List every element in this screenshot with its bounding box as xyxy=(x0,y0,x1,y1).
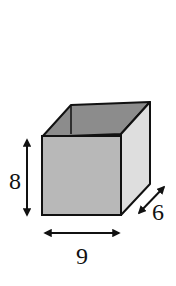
depth-label: 6 xyxy=(152,199,164,225)
width-label: 9 xyxy=(76,243,88,269)
front-face xyxy=(42,136,121,215)
height-label: 8 xyxy=(9,168,21,194)
box-diagram: 8 9 6 xyxy=(0,0,176,286)
